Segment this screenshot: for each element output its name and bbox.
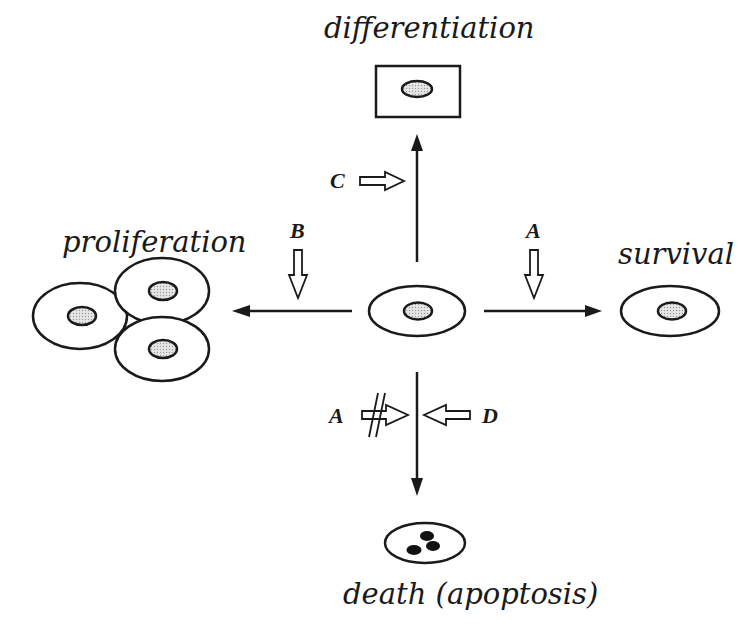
apoptotic-cell-icon (385, 523, 465, 563)
modulator-b-label: B (290, 220, 305, 242)
modulator-b-arrow (289, 250, 307, 298)
differentiated-cell-icon (376, 66, 460, 117)
modulator-d-label: D (482, 405, 498, 427)
arrow-to-differentiation (411, 134, 423, 262)
modulator-a-death-blocked-arrow (362, 393, 408, 437)
survival-label: survival (618, 240, 734, 269)
cell-fate-diagram: differentiation proliferation survival d… (0, 0, 746, 628)
center-cell (369, 286, 465, 336)
arrow-to-death (411, 372, 423, 496)
modulator-a-death-label: A (329, 405, 344, 427)
differentiation-label: differentiation (324, 14, 535, 43)
modulator-d-arrow (424, 405, 470, 425)
arrow-to-survival (484, 305, 602, 317)
modulator-c-label: C (330, 170, 345, 192)
diagram-graphics (0, 0, 746, 628)
arrow-to-proliferation (232, 305, 352, 317)
surviving-cell-icon (621, 286, 719, 336)
proliferation-label: proliferation (62, 228, 247, 257)
modulator-a-survival-arrow (525, 250, 543, 298)
modulator-c-arrow (360, 172, 404, 190)
proliferating-cells-icon (33, 258, 209, 381)
death-label: death (apoptosis) (343, 580, 598, 609)
modulator-a-survival-label: A (526, 220, 541, 242)
